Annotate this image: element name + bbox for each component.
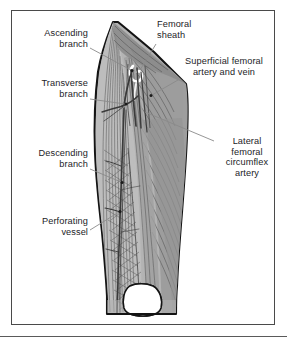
marker-superficial-femoral-artery-and-vein: [150, 94, 153, 97]
label-descending-branch: Descending branch: [12, 148, 88, 169]
marker-ascending-branch: [131, 69, 134, 72]
label-superficial-femoral-artery-and-vein: Superficial femoral artery and vein: [166, 56, 282, 77]
caption-divider-rule: [0, 336, 287, 337]
label-transverse-branch: Transverse branch: [14, 78, 88, 99]
marker-descending-branch: [121, 181, 124, 184]
marker-transverse-branch: [125, 103, 128, 106]
anatomical-figure: Ascending branchTransverse branchDescend…: [0, 0, 287, 344]
label-ascending-branch: Ascending branch: [18, 28, 88, 49]
label-femoral-sheath: Femoral sheath: [157, 19, 223, 40]
label-lateral-femoral-circumflex-artery: Lateral femoral circumflex artery: [216, 136, 278, 178]
marker-perforating-vessel: [119, 210, 122, 213]
label-perforating-vessel: Perforating vessel: [14, 216, 88, 237]
